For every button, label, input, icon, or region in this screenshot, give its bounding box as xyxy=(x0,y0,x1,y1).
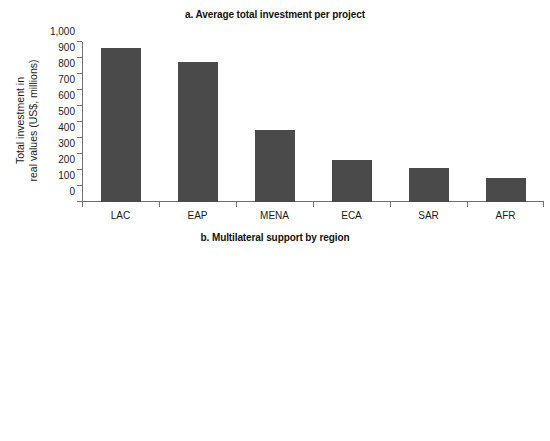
plot-area-a: 01002003004005006007008009001,000 LACEAP… xyxy=(82,42,544,202)
y-tick-a-9 xyxy=(77,57,82,58)
y-tick-label-a-2: 200 xyxy=(58,154,75,165)
chart-title-b: b. Multilateral support by region xyxy=(0,232,550,243)
y-tick-a-3 xyxy=(77,153,82,154)
chart-panel-a: a. Average total investment per project … xyxy=(0,0,550,220)
x-tick-a-1 xyxy=(159,202,160,207)
y-tick-label-a-3: 300 xyxy=(58,138,75,149)
x-tick-a-4 xyxy=(390,202,391,207)
y-tick-a-7 xyxy=(77,89,82,90)
y-tick-label-a-6: 600 xyxy=(58,90,75,101)
x-tick-a-5 xyxy=(467,202,468,207)
y-tick-label-a-1: 100 xyxy=(58,170,75,181)
y-axis-title-a-line1: Total investment in xyxy=(14,38,27,203)
y-tick-label-a-7: 700 xyxy=(58,74,75,85)
bar-a-eca[interactable] xyxy=(332,160,372,202)
y-tick-label-a-9: 900 xyxy=(58,42,75,53)
y-axis-title-a-line2: real values (US$, millions) xyxy=(27,38,40,203)
chart-title-a: a. Average total investment per project xyxy=(0,9,550,20)
x-tick-a-end xyxy=(543,202,544,207)
bar-a-mena[interactable] xyxy=(255,130,295,202)
bar-a-eap[interactable] xyxy=(178,62,218,202)
figure-container: a. Average total investment per project … xyxy=(0,0,550,441)
y-tick-label-a-8: 800 xyxy=(58,58,75,69)
y-tick-label-a-0: 0 xyxy=(69,186,75,197)
y-tick-a-1 xyxy=(77,185,82,186)
x-tick-a-0 xyxy=(82,202,83,207)
y-axis-line-a xyxy=(82,42,83,202)
y-tick-a-10 xyxy=(77,41,82,42)
y-tick-a-5 xyxy=(77,121,82,122)
bar-a-afr[interactable] xyxy=(486,178,526,202)
y-tick-a-6 xyxy=(77,105,82,106)
bar-a-sar[interactable] xyxy=(409,168,449,202)
y-tick-a-2 xyxy=(77,169,82,170)
y-tick-label-a-5: 500 xyxy=(58,106,75,117)
chart-panel-b: b. Multilateral support by region Share … xyxy=(0,220,550,441)
y-tick-a-4 xyxy=(77,137,82,138)
y-axis-title-a: Total investment in real values (US$, mi… xyxy=(14,38,40,203)
bar-a-lac[interactable] xyxy=(101,48,141,202)
x-tick-a-2 xyxy=(236,202,237,207)
y-tick-a-8 xyxy=(77,73,82,74)
y-tick-label-a-4: 400 xyxy=(58,122,75,133)
y-tick-label-a-10: 1,000 xyxy=(50,26,75,37)
x-tick-a-3 xyxy=(313,202,314,207)
